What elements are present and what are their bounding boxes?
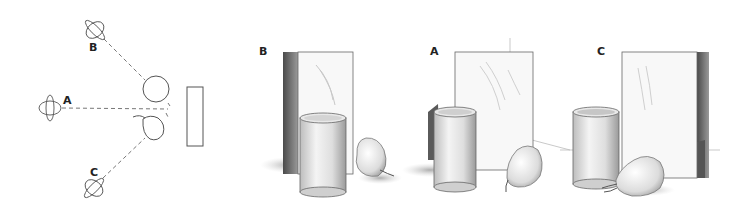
view-label-c: C [597,45,605,58]
sight-line-a [62,108,168,109]
sight-line-b [104,39,145,80]
sight-line-c [103,138,145,178]
view-label-b: B [259,45,267,58]
view-b-sketch [260,52,402,197]
view-label-a: A [430,45,439,58]
plan-label-b: B [89,41,97,54]
plan-view [39,18,203,200]
viewer-head-c-icon [82,176,106,200]
view-c-sketch [560,52,720,196]
plan-label-a: A [63,94,72,107]
box-side [283,52,298,174]
viewer-head-b-icon [83,18,107,42]
plan-box [187,87,203,146]
plan-pear [143,116,164,140]
illustration-canvas [0,0,740,216]
plan-cylinder [143,76,169,102]
plan-label-c: C [90,166,98,179]
viewer-head-a-icon [39,95,61,121]
drawing-viewpoints-illustration: B A C B A C [0,0,740,216]
view-a-sketch [402,38,570,192]
sight-lines [62,39,170,178]
